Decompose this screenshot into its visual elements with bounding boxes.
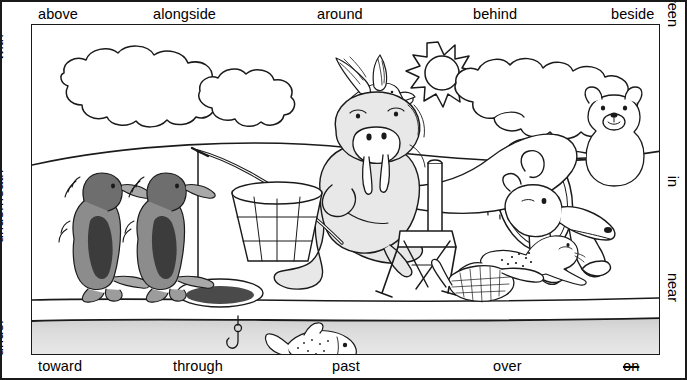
label-on: on <box>623 358 639 374</box>
label-above: above <box>38 6 78 22</box>
worksheet-page: above alongside around behind beside tow… <box>0 0 687 380</box>
bucket <box>232 182 322 261</box>
arctic-scene <box>32 25 660 355</box>
label-behind: behind <box>473 6 517 22</box>
cloud-small-left <box>199 69 295 126</box>
label-alongside: alongside <box>153 6 216 22</box>
label-past: past <box>332 358 360 374</box>
label-near: near <box>665 273 681 302</box>
label-with: with <box>0 34 6 60</box>
label-over: over <box>493 358 522 374</box>
label-through: through <box>173 358 223 374</box>
label-around: around <box>317 6 363 22</box>
label-in: in <box>665 176 681 187</box>
cloud-large-left <box>61 46 221 127</box>
label-beside: beside <box>611 6 654 22</box>
label-underneath: underneath <box>0 170 6 243</box>
label-toward: toward <box>38 358 82 374</box>
illustration-frame <box>31 24 660 355</box>
label-between: between <box>665 0 681 27</box>
label-under: under <box>0 319 6 356</box>
